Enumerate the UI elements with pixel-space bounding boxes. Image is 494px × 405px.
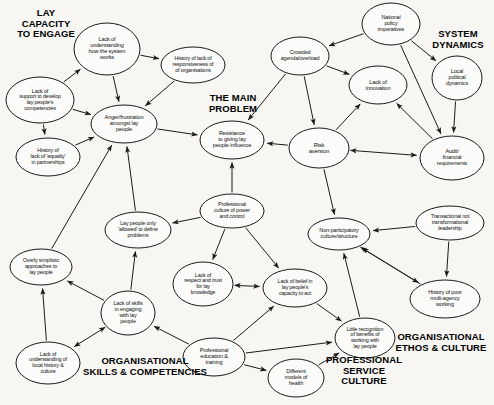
node-lack_innovation[interactable]: [349, 66, 407, 104]
edge-audit_financial-to-lack_innovation: [397, 103, 433, 138]
edge-transactional_leadership-to-history_poor_multiagency: [446, 241, 448, 276]
node-crowded_agenda[interactable]: [271, 37, 329, 75]
node-history_poor_multiagency[interactable]: [410, 280, 480, 318]
edge-lack_understanding_local-to-overly_simplistic: [43, 288, 47, 340]
edge-professional_culture_power-to-lay_people_allowed: [173, 217, 201, 223]
node-lack_belief_capacity[interactable]: [263, 269, 327, 307]
node-local_political[interactable]: [432, 56, 482, 100]
node-overly_simplistic[interactable]: [10, 249, 72, 285]
edge-lack_support_develop-to-lack_understanding_system: [64, 69, 81, 82]
edge-anger_frustration-to-resistance_giving_influence: [157, 129, 197, 135]
node-transactional_leadership[interactable]: [416, 206, 484, 240]
edge-lay_people_allowed-to-anger_frustration: [127, 146, 135, 210]
edge-lack_understanding_system-to-anger_frustration: [113, 76, 119, 102]
node-national_policy[interactable]: [362, 3, 420, 45]
edge-lack_respect_trust-to-lack_belief_capacity: [234, 285, 259, 286]
edge-crowded_agenda-to-risk_aversion: [304, 76, 314, 124]
edge-lack_skills_engaging-to-overly_simplistic: [67, 281, 104, 300]
node-non_participatory[interactable]: [308, 218, 370, 250]
edge-risk_aversion-to-resistance_giving_influence: [267, 143, 288, 145]
edge-history_lack_responsiveness-to-anger_frustration: [145, 81, 174, 106]
edge-transactional_leadership-to-non_participatory: [373, 226, 415, 230]
node-audit_financial[interactable]: [420, 136, 484, 180]
cluster-label-system_dynamics: SYSTEM DYNAMICS: [422, 29, 494, 50]
node-little_recognition[interactable]: [335, 318, 395, 358]
edge-lack_understanding_system-to-history_lack_responsiveness: [141, 55, 159, 58]
edge-crowded_agenda-to-lack_innovation: [327, 66, 350, 74]
edge-professional_education-to-lack_skills_engaging: [154, 326, 189, 344]
cluster-label-main_problem: THE MAIN PROBLEM: [192, 93, 274, 114]
edge-professional_education-to-little_recognition: [246, 342, 332, 353]
node-different_models_health[interactable]: [268, 359, 324, 397]
node-lack_skills_engaging[interactable]: [101, 291, 155, 335]
edge-professional_culture_power-to-lack_belief_capacity: [246, 228, 279, 268]
edge-professional_culture_power-to-lack_respect_trust: [213, 229, 225, 260]
edge-risk_aversion-to-non_participatory: [324, 169, 335, 214]
edge-professional_education-to-different_models_health: [244, 365, 266, 371]
edge-lack_support_develop-to-anger_frustration: [73, 109, 91, 114]
edge-history_poor_multiagency-to-non_participatory: [362, 248, 420, 284]
concept-map-canvas: Lack of understanding how the system wor…: [0, 0, 494, 405]
node-history_lack_equality[interactable]: [16, 138, 80, 176]
edge-professional_education-to-lack_belief_capacity: [233, 306, 273, 340]
edge-lack_skills_engaging-to-lay_people_allowed: [131, 251, 136, 289]
cluster-label-organisational_ethos: ORGANISATIONAL ETHOS & CULTURE: [388, 332, 494, 353]
edge-local_political-to-audit_financial: [454, 101, 456, 132]
node-professional_culture_power[interactable]: [200, 194, 264, 228]
edge-little_recognition-to-non_participatory: [344, 253, 360, 317]
edge-lack_belief_capacity-to-little_recognition: [317, 304, 342, 322]
node-history_lack_responsiveness[interactable]: [161, 47, 225, 83]
node-resistance_giving_influence[interactable]: [200, 121, 264, 159]
edge-risk_aversion-to-lack_innovation: [336, 104, 360, 130]
edge-lack_support_develop-to-history_lack_equality: [43, 124, 44, 134]
edge-risk_aversion-to-audit_financial: [350, 150, 416, 155]
edge-national_policy-to-crowded_agenda: [329, 34, 363, 46]
node-lay_people_allowed[interactable]: [105, 212, 171, 248]
node-risk_aversion[interactable]: [289, 128, 349, 168]
edge-history_lack_equality-to-anger_frustration: [75, 137, 94, 145]
edge-lack_skills_engaging-to-lack_understanding_local: [74, 327, 105, 346]
node-anger_frustration[interactable]: [91, 105, 157, 143]
node-lack_support_develop[interactable]: [6, 77, 74, 123]
cluster-label-lay_capacity: LAY CAPACITY TO ENGAGE: [8, 8, 84, 40]
cluster-label-organisational_skills: ORGANISATIONAL SKILLS & COMPETENCIES: [70, 356, 220, 377]
node-lack_respect_trust[interactable]: [173, 262, 233, 306]
cluster-label-professional_service: PROFESSIONAL SERVICE CULTURE: [318, 355, 410, 387]
